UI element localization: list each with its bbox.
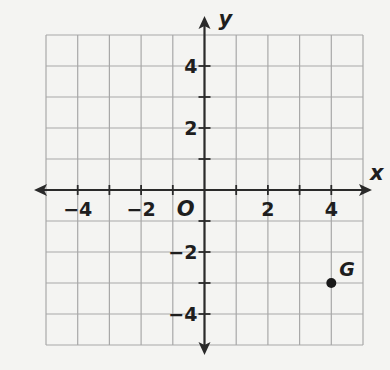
y-tick-label: 4	[184, 55, 197, 77]
point-label: G	[339, 258, 355, 280]
y-tick-label: −2	[168, 241, 197, 263]
origin-label: O	[177, 197, 195, 221]
x-tick-label: −2	[127, 198, 156, 220]
y-tick-label: 2	[184, 117, 197, 139]
labels: −4−22442−2−4Oxy	[63, 7, 385, 325]
point-g	[326, 278, 336, 288]
x-tick-label: 4	[325, 198, 338, 220]
y-tick-label: −4	[168, 303, 197, 325]
y-axis-label: y	[219, 7, 234, 31]
x-tick-label: −4	[63, 198, 92, 220]
x-tick-label: 2	[261, 198, 274, 220]
x-axis-label: x	[369, 161, 385, 185]
coordinate-plane: −4−22442−2−4Oxy G	[0, 0, 390, 370]
